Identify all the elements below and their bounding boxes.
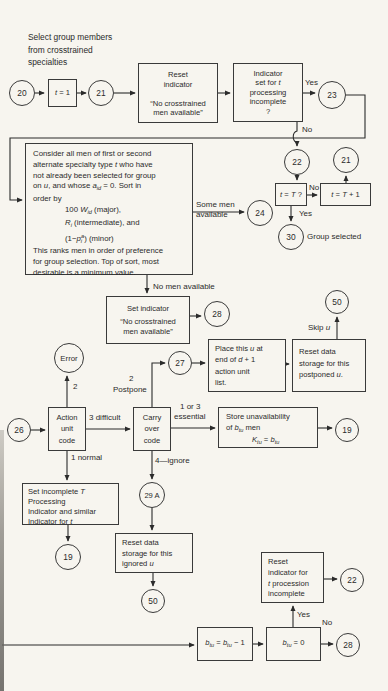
- edge-label-group-selected: Group selected: [307, 232, 361, 242]
- scan-edge-shadow: [0, 430, 4, 691]
- connector-circle-19: 19: [335, 418, 359, 442]
- process-box-reset-postponed: Reset data storage for this postponed u.: [292, 339, 366, 392]
- decision-box-btu-zero: btu = 0: [266, 627, 321, 661]
- process-box-place-u: Place this u at end of d + 1 action unit…: [208, 339, 286, 392]
- edge-label-no-men-available: No men available: [153, 282, 215, 292]
- connector-circle-19-lower: 19: [55, 544, 81, 570]
- process-box-reset-indicator: Reset indicator “No crosstrained men ava…: [138, 63, 218, 123]
- connector-circle-50: 50: [325, 290, 349, 314]
- connector-circle-28: 28: [204, 301, 230, 327]
- connector-circle-30: 30: [278, 224, 304, 250]
- process-box-t-equals-T-plus-1: t = T + 1: [320, 183, 371, 206]
- connector-circle-26: 26: [7, 418, 31, 442]
- connector-circle-27: 27: [168, 351, 192, 375]
- edge-label-no-tT: No: [309, 183, 319, 193]
- edge-label-some-men: Some men available: [196, 200, 235, 219]
- connector-circle-24: 24: [247, 200, 273, 226]
- decision-box-action-unit-code: Action unit code: [48, 407, 86, 451]
- edge-label-yes-top: Yes: [305, 78, 318, 88]
- edge-label-1-normal: 1 normal: [71, 453, 102, 463]
- edge-label-yes-tT: Yes: [299, 209, 312, 219]
- process-box-reset-ignored: Reset data storage for this ignored u: [115, 533, 193, 573]
- figure-annotation: Select group members from crosstrained s…: [28, 31, 112, 69]
- connector-circle-50-lower: 50: [141, 589, 165, 613]
- connector-circle-28-lower: 28: [336, 633, 360, 657]
- connector-circle-23: 23: [318, 81, 346, 109]
- edge-label-4-ignore: 4—ignore: [155, 456, 190, 466]
- connector-circle-error: Error: [54, 343, 84, 373]
- process-box-reset-procession-indicator: Reset indicator for t procession incompl…: [261, 552, 324, 603]
- connector-circle-29a: 29 A: [139, 482, 165, 508]
- edge-label-no-top: No: [302, 125, 312, 135]
- edge-label-1-or-3: 1 or 3: [180, 402, 200, 412]
- decision-box-carry-over-code: Carry over code: [133, 407, 171, 451]
- connector-circle-21: 21: [88, 80, 114, 106]
- edge-label-2-postpone-num: 2: [129, 374, 133, 384]
- process-box-consider-men: Consider all men of first or second alte…: [25, 143, 193, 275]
- process-box-t-equals-1: t = 1: [48, 79, 77, 107]
- connector-circle-21-return: 21: [333, 147, 359, 173]
- edge-label-skip-u: Skip u: [308, 323, 330, 333]
- connector-circle-22-lower: 22: [340, 568, 364, 592]
- edge-label-no-bottom: No: [322, 618, 332, 628]
- edge-label-2-error: 2: [73, 382, 77, 392]
- process-box-set-indicator: Set indicator “No crosstrained men avail…: [106, 296, 190, 344]
- edge-label-yes-bottom: Yes: [297, 610, 310, 620]
- connector-circle-22: 22: [284, 149, 310, 175]
- connector-circle-20: 20: [9, 80, 35, 106]
- process-box-set-incomplete: Set incomplete T Processing Indicator an…: [22, 483, 119, 525]
- flowchart-page: Select group members from crosstrained s…: [0, 0, 388, 691]
- decision-box-indicator-set: Indicator set for t processing incomplet…: [233, 63, 303, 122]
- process-box-store-unavailability: Store unavailability of btu men Ktu = bt…: [218, 407, 318, 448]
- decision-box-t-equals-T: t = T ?: [275, 183, 307, 206]
- edge-label-3-difficult: 3 difficult: [89, 413, 120, 423]
- process-box-btu-decrement: btu = btu − 1: [197, 627, 253, 661]
- edge-label-essential: essential: [174, 412, 206, 422]
- edge-label-postpone: Postpone: [113, 385, 147, 395]
